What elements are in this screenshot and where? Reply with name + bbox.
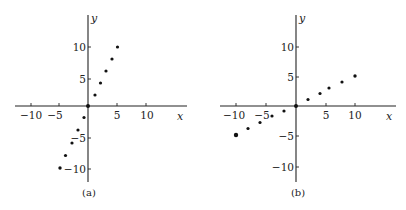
data-point: [327, 86, 330, 89]
plot-a: −10 −5 5 10 x 10 5 −5 −10 y (a): [15, 12, 187, 198]
plot-b: −10 −5 5 10 x 10 5 −5 −10 y (b): [220, 12, 396, 198]
data-point: [246, 127, 249, 130]
y-tick-label: 10: [281, 41, 294, 53]
panel-label-b: (b): [291, 187, 305, 198]
x-axis-label: x: [177, 110, 184, 123]
y-axis-label: y: [90, 12, 98, 25]
data-point: [104, 69, 107, 72]
data-point: [294, 104, 298, 108]
x-tick-label: 5: [114, 109, 121, 121]
x-tick-label: 10: [140, 109, 153, 121]
data-point: [64, 154, 67, 157]
x-tick-label: −10: [223, 109, 245, 121]
data-point: [93, 93, 96, 96]
data-point: [282, 109, 285, 112]
data-point: [99, 81, 102, 84]
data-point: [270, 114, 273, 117]
data-point: [353, 74, 356, 77]
data-point: [58, 166, 61, 169]
panel-label-a: (a): [82, 187, 96, 198]
y-tick-label: −10: [64, 163, 86, 175]
data-point: [306, 98, 309, 101]
data-point: [116, 45, 119, 48]
y-axis-label: y: [298, 12, 306, 25]
y-tick-label: 10: [73, 41, 86, 53]
data-point: [86, 104, 90, 108]
series-a-points: [58, 45, 119, 169]
data-point: [340, 80, 343, 83]
x-tick-label: −10: [20, 109, 42, 121]
y-tick-label: −10: [272, 161, 294, 173]
x-tick-label: −5: [254, 109, 269, 121]
data-point: [82, 116, 85, 119]
y-tick-label: 5: [79, 73, 86, 85]
x-tick-label: −5: [47, 109, 62, 121]
x-tick-label: 10: [348, 109, 361, 121]
figure: −10 −5 5 10 x 10 5 −5 −10 y (a): [0, 0, 406, 210]
data-point: [76, 128, 79, 131]
data-point: [234, 133, 238, 137]
x-tick-label: 5: [323, 109, 330, 121]
data-point: [318, 92, 321, 95]
y-tick-label: 5: [287, 71, 294, 83]
data-point: [70, 141, 73, 144]
data-point: [110, 57, 113, 60]
x-axis-label: x: [386, 110, 393, 123]
data-point: [258, 121, 261, 124]
y-tick-label: −5: [279, 130, 294, 142]
